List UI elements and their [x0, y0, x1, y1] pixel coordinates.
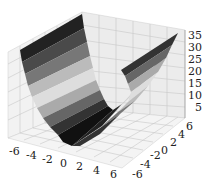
x-tick: 6	[110, 168, 117, 181]
x-tick: 0	[60, 157, 67, 170]
x-tick: 2	[76, 160, 83, 173]
y-tick: 4	[178, 128, 185, 141]
x-tick: -2	[42, 153, 53, 166]
x-tick: -4	[26, 149, 37, 162]
x-tick: -6	[9, 145, 20, 158]
x-tick: 4	[93, 164, 100, 177]
z-tick: 5	[195, 101, 202, 114]
surface-3d-chart: 35 30 25 20 15 10 5 -6 -4 -2 0 2 4 6 -6 …	[0, 0, 213, 188]
y-tick: 6	[186, 120, 193, 133]
y-tick: 2	[170, 136, 177, 149]
y-tick: 0	[161, 144, 168, 157]
y-tick: -2	[150, 149, 161, 162]
surface-plot: 35 30 25 20 15 10 5 -6 -4 -2 0 2 4 6 -6 …	[0, 0, 213, 188]
